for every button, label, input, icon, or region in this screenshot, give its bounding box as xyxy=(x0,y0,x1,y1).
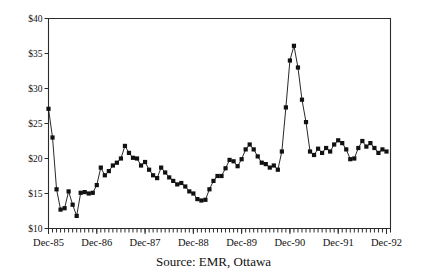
data-point-marker xyxy=(179,181,183,185)
data-point-marker xyxy=(159,166,163,170)
data-point-marker xyxy=(151,173,155,177)
data-point-marker xyxy=(103,173,107,177)
data-point-marker xyxy=(296,65,300,69)
data-point-marker xyxy=(62,206,66,210)
data-point-marker xyxy=(268,166,272,170)
x-tick-label: Dec-90 xyxy=(274,237,305,248)
data-point-marker xyxy=(115,161,119,165)
data-point-marker xyxy=(288,58,292,62)
data-point-marker xyxy=(46,107,50,111)
data-point-marker xyxy=(336,138,340,142)
data-point-marker xyxy=(240,157,244,161)
data-point-marker xyxy=(139,163,143,167)
data-point-marker xyxy=(167,175,171,179)
oil-price-line-chart: $10$15$20$25$30$35$40 Dec-85Dec-86Dec-87… xyxy=(0,0,427,274)
data-point-marker xyxy=(155,176,159,180)
data-point-marker xyxy=(304,120,308,124)
data-point-marker xyxy=(54,187,58,191)
data-point-marker xyxy=(83,190,87,194)
y-axis-ticks xyxy=(45,19,49,229)
data-point-marker xyxy=(372,146,376,150)
x-tick-label: Dec-89 xyxy=(226,237,257,248)
data-point-marker xyxy=(123,144,127,148)
x-tick-label: Dec-91 xyxy=(323,237,354,248)
x-axis-labels: Dec-85Dec-86Dec-87Dec-88Dec-89Dec-90Dec-… xyxy=(33,237,402,248)
data-point-marker xyxy=(183,184,187,188)
data-point-marker xyxy=(231,159,235,163)
data-point-marker xyxy=(280,149,284,153)
data-point-marker xyxy=(67,189,71,193)
y-axis-labels: $10$15$20$25$30$35$40 xyxy=(28,14,43,234)
data-point-marker xyxy=(143,160,147,164)
data-point-marker xyxy=(384,149,388,153)
data-point-marker xyxy=(171,179,175,183)
y-tick-label: $35 xyxy=(28,49,43,59)
data-point-marker xyxy=(195,197,199,201)
data-point-marker xyxy=(203,198,207,202)
data-point-marker xyxy=(223,166,227,170)
data-point-marker xyxy=(75,214,79,218)
y-tick-label: $15 xyxy=(28,189,43,199)
data-point-marker xyxy=(91,191,95,195)
data-point-marker xyxy=(191,191,195,195)
data-point-marker xyxy=(211,179,215,183)
data-point-marker xyxy=(215,174,219,178)
data-point-marker xyxy=(368,141,372,145)
data-point-marker xyxy=(284,105,288,109)
chart-container: $10$15$20$25$30$35$40 Dec-85Dec-86Dec-87… xyxy=(0,0,427,274)
data-point-marker xyxy=(316,147,320,151)
x-tick-label: Dec-92 xyxy=(371,237,402,248)
x-tick-label: Dec-86 xyxy=(81,237,112,248)
data-point-marker xyxy=(107,169,111,173)
x-tick-label: Dec-87 xyxy=(130,237,161,248)
data-point-marker xyxy=(344,147,348,151)
data-point-marker xyxy=(207,187,211,191)
data-point-marker xyxy=(340,141,344,145)
data-point-marker xyxy=(127,151,131,155)
data-point-marker xyxy=(320,151,324,155)
data-point-marker xyxy=(147,168,151,172)
data-point-marker xyxy=(87,191,91,195)
data-point-marker xyxy=(376,151,380,155)
data-point-marker xyxy=(272,163,276,167)
data-point-marker xyxy=(236,164,240,168)
data-point-marker xyxy=(58,208,62,212)
data-point-marker xyxy=(292,44,296,48)
x-axis-ticks xyxy=(49,229,391,235)
data-point-marker xyxy=(324,146,328,150)
data-point-marker xyxy=(95,183,99,187)
x-tick-label: Dec-88 xyxy=(178,237,209,248)
data-point-marker xyxy=(187,189,191,193)
y-tick-label: $20 xyxy=(28,154,43,164)
y-tick-label: $25 xyxy=(28,119,43,129)
data-point-marker xyxy=(364,145,368,149)
data-point-marker xyxy=(131,156,135,160)
data-point-marker xyxy=(312,153,316,157)
data-point-marker xyxy=(264,162,268,166)
data-point-marker xyxy=(348,157,352,161)
data-point-marker xyxy=(252,147,256,151)
data-point-marker xyxy=(119,156,123,160)
data-point-marker xyxy=(111,163,115,167)
data-point-marker xyxy=(175,182,179,186)
data-point-marker xyxy=(244,147,248,151)
data-point-marker xyxy=(300,98,304,102)
y-tick-label: $10 xyxy=(28,224,43,234)
data-point-marker xyxy=(163,170,167,174)
data-point-marker xyxy=(352,156,356,160)
data-point-marker xyxy=(50,135,54,139)
data-point-marker xyxy=(380,147,384,151)
data-point-marker xyxy=(227,158,231,162)
x-tick-label: Dec-85 xyxy=(33,237,64,248)
y-tick-label: $30 xyxy=(28,84,43,94)
data-point-marker xyxy=(332,142,336,146)
data-point-marker xyxy=(79,191,83,195)
plot-frame xyxy=(49,19,391,229)
data-point-marker xyxy=(356,146,360,150)
data-point-marker xyxy=(360,139,364,143)
data-point-marker xyxy=(71,203,75,207)
data-point-marker xyxy=(199,198,203,202)
data-point-marker xyxy=(248,142,252,146)
y-tick-label: $40 xyxy=(28,14,43,24)
price-series xyxy=(46,44,388,218)
